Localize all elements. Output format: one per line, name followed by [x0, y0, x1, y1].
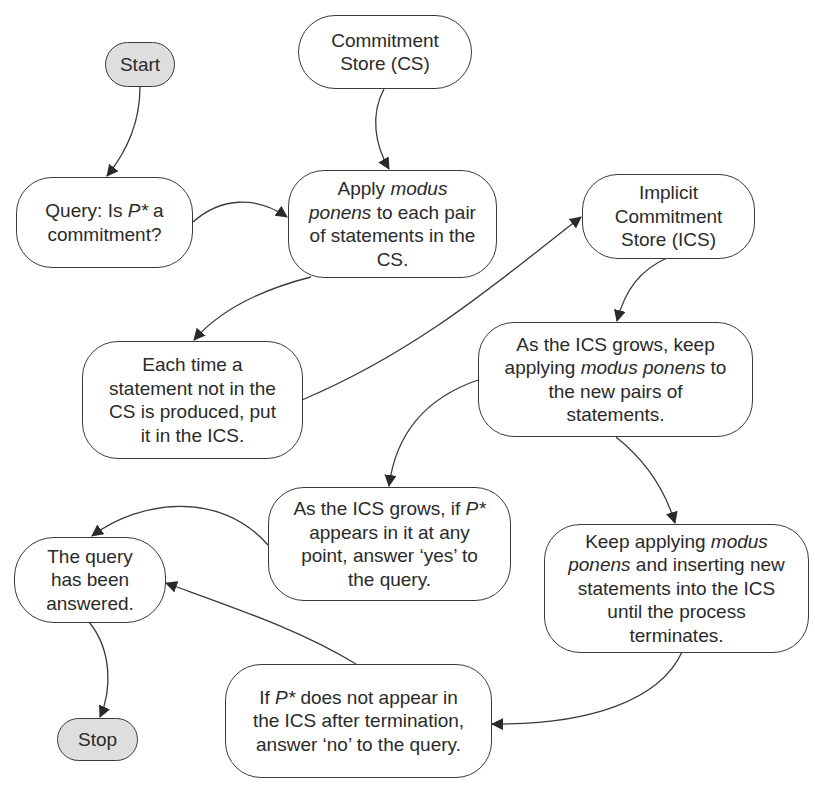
edge-cs-to-apply	[376, 89, 389, 169]
apply-modus-ponens-node: Apply modusponens to each pairof stateme…	[288, 170, 497, 278]
query-label: Query: Is P* acommitment?	[45, 199, 163, 246]
query-answered-label: The queryhas beenanswered.	[46, 545, 134, 616]
answer-no-label: If P* does not appear inthe ICS after te…	[253, 686, 464, 757]
keep-applying-node: Keep applying modusponens and inserting …	[544, 524, 809, 653]
answer-no-node: If P* does not appear inthe ICS after te…	[225, 664, 492, 778]
implicit-commitment-store-node: ImplicitCommitmentStore (ICS)	[582, 174, 755, 259]
edge-keep-to-no	[492, 652, 682, 724]
flowchart-canvas: Start CommitmentStore (CS) Query: Is P* …	[0, 0, 815, 788]
each-time-node: Each time astatement not in theCS is pro…	[82, 341, 303, 459]
commitment-store-node: CommitmentStore (CS)	[298, 15, 472, 89]
edge-ics-grows-to-yes	[389, 380, 478, 486]
start-node: Start	[105, 42, 175, 87]
implicit-commitment-store-label: ImplicitCommitmentStore (ICS)	[615, 181, 723, 252]
commitment-store-label: CommitmentStore (CS)	[331, 29, 439, 76]
apply-modus-ponens-label: Apply modusponens to each pairof stateme…	[309, 177, 476, 271]
edge-apply-to-each-time	[194, 277, 311, 340]
keep-applying-label: Keep applying modusponens and inserting …	[568, 530, 785, 648]
ics-grows-label: As the ICS grows, keepapplying modus pon…	[505, 333, 727, 427]
query-node: Query: Is P* acommitment?	[16, 177, 193, 268]
edge-query-to-apply	[193, 202, 287, 222]
answer-yes-label: As the ICS grows, if P*appears in it at …	[293, 497, 485, 591]
start-label: Start	[120, 53, 160, 77]
stop-node: Stop	[57, 718, 138, 761]
query-answered-node: The queryhas beenanswered.	[14, 537, 166, 623]
edge-ics-to-ics-grows	[617, 258, 667, 321]
edge-ics-grows-to-keep	[616, 437, 675, 523]
edge-answered-to-stop	[89, 622, 108, 717]
edge-start-to-query	[107, 87, 140, 176]
stop-label: Stop	[78, 728, 117, 752]
answer-yes-node: As the ICS grows, if P*appears in it at …	[268, 487, 511, 601]
each-time-label: Each time astatement not in theCS is pro…	[109, 353, 276, 447]
ics-grows-node: As the ICS grows, keepapplying modus pon…	[478, 322, 753, 437]
